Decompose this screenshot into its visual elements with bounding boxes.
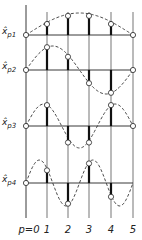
sample-point — [108, 90, 113, 95]
sample-point — [23, 32, 28, 37]
p-label-3: 3 — [86, 224, 92, 235]
sample-point — [44, 168, 49, 173]
sample-point — [23, 180, 28, 185]
mode-label: x̂p4 — [1, 174, 16, 187]
mode-row-1: x̂p1 — [1, 13, 136, 39]
sample-point — [86, 161, 91, 166]
p-label-2: 2 — [65, 224, 71, 235]
p-axis-labels: p=012345 — [17, 224, 136, 235]
sample-point — [86, 140, 91, 145]
sample-point — [23, 123, 28, 128]
grid — [26, 5, 133, 218]
sample-point — [130, 67, 135, 72]
mode-row-4: x̂p4 — [1, 160, 133, 206]
sample-point — [65, 201, 70, 206]
sample-point — [65, 140, 70, 145]
sample-point — [86, 13, 91, 18]
sample-point — [65, 13, 70, 18]
sample-point — [65, 54, 70, 59]
p-label-0: p=0 — [17, 224, 39, 235]
mode-label: x̂p2 — [1, 61, 17, 74]
sample-point — [86, 81, 91, 86]
mode-shapes-diagram: x̂p1x̂p2x̂p3x̂p4 p=012345 — [0, 0, 142, 240]
p-label-1: 1 — [44, 224, 50, 235]
mode-label: x̂p3 — [1, 117, 16, 130]
sample-point — [130, 123, 135, 128]
p-label-4: 4 — [108, 224, 114, 235]
sample-point — [23, 67, 28, 72]
mode-curve — [26, 13, 133, 35]
p-label-5: 5 — [130, 224, 136, 235]
sample-point — [44, 103, 49, 108]
sample-point — [108, 194, 113, 199]
sample-point — [44, 21, 49, 26]
sample-point — [108, 103, 113, 108]
sample-point — [130, 32, 135, 37]
mode-label: x̂p1 — [1, 26, 16, 39]
sample-point — [108, 21, 113, 26]
sample-point — [44, 45, 49, 50]
